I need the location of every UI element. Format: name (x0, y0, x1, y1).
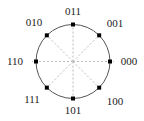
axis-line (73, 62, 99, 88)
constellation-point (108, 60, 112, 64)
point-label: 011 (65, 5, 81, 17)
axis-line (73, 35, 99, 61)
point-label: 000 (121, 55, 138, 67)
constellation-point (71, 23, 75, 27)
constellation-point (97, 86, 101, 90)
axis-line (47, 35, 73, 61)
point-label: 001 (107, 17, 124, 29)
constellation-diagram: 000001011010110111101100 (0, 0, 144, 121)
point-label: 110 (7, 55, 24, 67)
constellation-point (45, 33, 49, 37)
axis-line (47, 62, 73, 88)
dashed-axis-lines (32, 25, 114, 99)
point-label: 100 (107, 95, 124, 107)
point-label: 101 (65, 104, 82, 116)
point-label: 111 (24, 93, 40, 105)
constellation-point (97, 33, 101, 37)
point-label: 010 (26, 16, 43, 28)
constellation-point (71, 97, 75, 101)
constellation-point (34, 60, 38, 64)
constellation-point (45, 86, 49, 90)
